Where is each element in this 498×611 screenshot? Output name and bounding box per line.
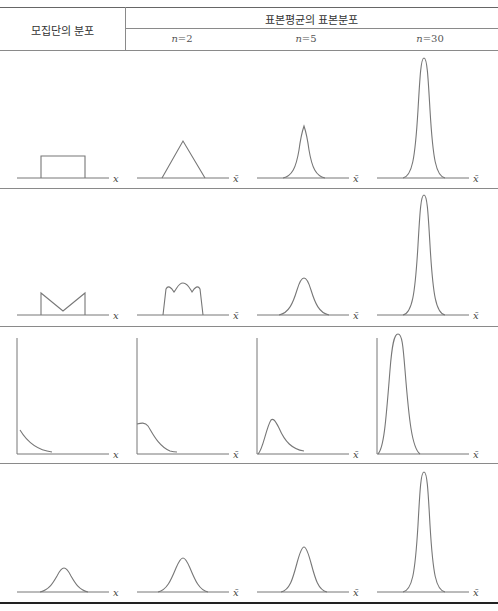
xbar-axis-label: x̄ xyxy=(473,449,479,460)
row2-n30-narrow-bell: x̄ xyxy=(377,195,479,321)
row1-population-uniform: x xyxy=(17,156,119,184)
row1-n2-triangle: x̄ xyxy=(137,141,239,184)
row2-n2-bumpy-plateau: x̄ xyxy=(137,283,239,321)
xbar-axis-label: x̄ xyxy=(233,587,239,598)
row4-n30-narrow-normal: x̄ xyxy=(377,472,479,598)
row3-n30-near-normal: x̄ xyxy=(377,334,479,460)
xbar-axis-label: x̄ xyxy=(473,310,479,321)
xbar-axis-label: x̄ xyxy=(353,449,359,460)
xbar-axis-label: x̄ xyxy=(473,173,479,184)
xbar-axis-label: x̄ xyxy=(473,587,479,598)
row2-population-v-shape: x xyxy=(17,293,119,321)
xbar-axis-label: x̄ xyxy=(353,310,359,321)
distribution-diagrams: x x̄ x̄ x̄ x x̄ x̄ x̄ x xyxy=(0,0,498,611)
xbar-axis-label: x̄ xyxy=(353,587,359,598)
x-axis-label: x xyxy=(113,310,119,321)
row1-n30-narrow-bell: x̄ xyxy=(377,58,479,184)
x-axis-label: x xyxy=(113,587,119,598)
xbar-axis-label: x̄ xyxy=(233,310,239,321)
row4-n5-normal: x̄ xyxy=(257,547,359,598)
row3-n2-skewed: x̄ xyxy=(137,338,239,460)
row2-n5-bell: x̄ xyxy=(257,278,359,321)
row4-n2-normal: x̄ xyxy=(137,558,239,598)
xbar-axis-label: x̄ xyxy=(233,173,239,184)
row4-population-normal: x xyxy=(17,568,119,598)
x-axis-label: x xyxy=(113,449,119,460)
row3-population-exponential: x xyxy=(17,338,119,460)
row1-n5-bell: x̄ xyxy=(257,126,359,184)
row3-n5-skewed-peak: x̄ xyxy=(257,338,359,460)
x-axis-label: x xyxy=(113,173,119,184)
xbar-axis-label: x̄ xyxy=(353,173,359,184)
xbar-axis-label: x̄ xyxy=(233,449,239,460)
